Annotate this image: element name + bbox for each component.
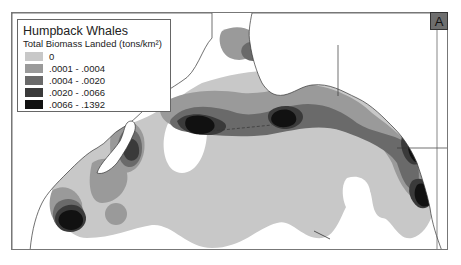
legend-swatch bbox=[25, 88, 43, 97]
legend-label: .0020 - .0066 bbox=[49, 87, 105, 98]
legend-swatch bbox=[25, 100, 43, 109]
legend-label: .0001 - .0004 bbox=[49, 63, 105, 74]
panel-label: A bbox=[430, 12, 448, 30]
legend-swatch bbox=[25, 52, 43, 61]
legend-swatch bbox=[25, 76, 43, 85]
legend-item: .0004 - .0020 bbox=[23, 74, 165, 86]
legend-item: .0020 - .0066 bbox=[23, 86, 165, 98]
legend-item: 0 bbox=[23, 50, 165, 62]
legend-swatch bbox=[25, 64, 43, 73]
legend-label: 0 bbox=[49, 51, 54, 62]
legend-label: .0004 - .0020 bbox=[49, 75, 105, 86]
map-legend: Humpback Whales Total Biomass Landed (to… bbox=[17, 19, 171, 112]
legend-label: .0066 - .1392 bbox=[49, 99, 105, 110]
legend-subtitle: Total Biomass Landed (tons/km²) bbox=[23, 38, 165, 50]
legend-title: Humpback Whales bbox=[23, 24, 165, 38]
legend-item: .0066 - .1392 bbox=[23, 98, 165, 110]
legend-item: .0001 - .0004 bbox=[23, 62, 165, 74]
